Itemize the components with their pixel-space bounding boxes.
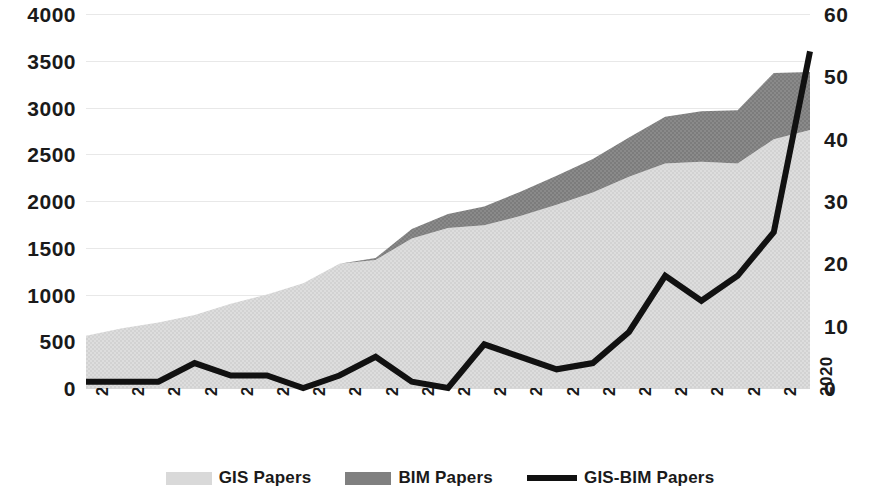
legend-label-gis-papers: GIS Papers <box>219 468 312 488</box>
area-gis-papers <box>86 130 810 388</box>
chart-legend: GIS Papers BIM Papers GIS-BIM Papers <box>0 468 880 488</box>
legend-swatch-gis-bim-papers <box>527 475 577 481</box>
legend-swatch-bim-papers <box>345 472 391 485</box>
legend-item-gis-bim-papers[interactable]: GIS-BIM Papers <box>527 468 714 488</box>
legend-swatch-gis-papers <box>166 472 212 485</box>
legend-label-gis-bim-papers: GIS-BIM Papers <box>584 468 714 488</box>
legend-item-bim-papers[interactable]: BIM Papers <box>345 468 493 488</box>
series-canvas <box>0 0 880 501</box>
chart-container: 05001000150020002500300035004000 0102030… <box>0 0 880 501</box>
legend-label-bim-papers: BIM Papers <box>398 468 493 488</box>
legend-item-gis-papers[interactable]: GIS Papers <box>166 468 312 488</box>
